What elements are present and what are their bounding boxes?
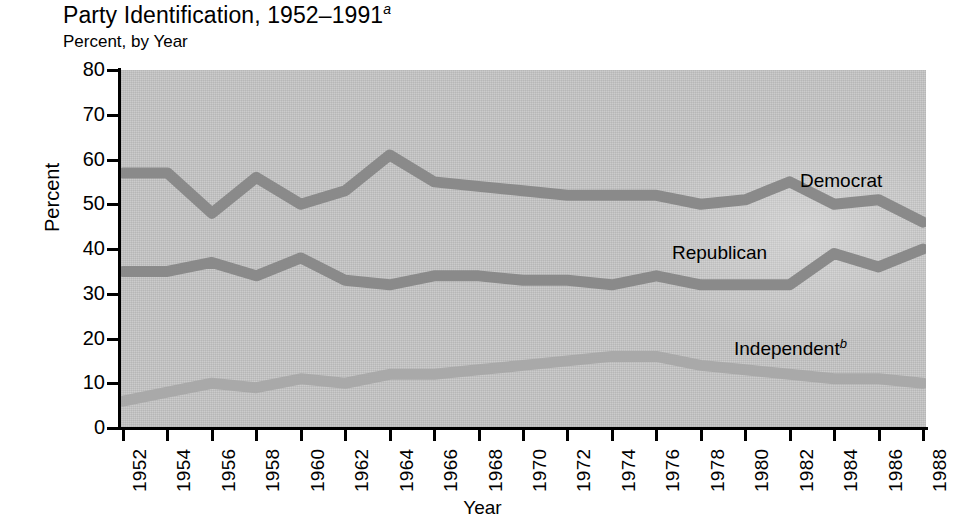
x-axis-tick — [744, 430, 747, 441]
x-axis-tick — [300, 430, 303, 441]
x-axis-tick-label: 1984 — [841, 422, 860, 492]
x-axis-tick-label: 1960 — [308, 422, 327, 492]
y-axis-tick — [107, 114, 120, 117]
series-label-democrat: Democrat — [800, 170, 882, 192]
page-title: Party Identification, 1952–1991a — [63, 1, 391, 29]
y-axis-tick-label: 0 — [61, 417, 105, 437]
y-axis-tick-label: 40 — [61, 238, 105, 258]
y-axis-tick-label: 30 — [61, 283, 105, 303]
plot-area — [120, 70, 926, 428]
y-axis-tick — [107, 382, 120, 385]
x-axis-tick — [122, 430, 125, 441]
x-axis-tick-label: 1982 — [797, 422, 816, 492]
x-axis-tick — [522, 430, 525, 441]
x-axis-tick-label: 1962 — [352, 422, 371, 492]
x-axis-tick-label: 1988 — [930, 422, 949, 492]
x-axis-tick — [789, 430, 792, 441]
x-axis-tick — [166, 430, 169, 441]
series-line-republican — [123, 249, 923, 285]
x-axis-tick-label: 1978 — [708, 422, 727, 492]
y-axis-tick-label: 70 — [61, 104, 105, 124]
x-axis-tick — [389, 430, 392, 441]
x-axis-tick-label: 1952 — [130, 422, 149, 492]
y-axis-tick — [107, 69, 120, 72]
x-axis-tick-label: 1954 — [174, 422, 193, 492]
x-axis-tick-label: 1976 — [663, 422, 682, 492]
series-lines — [120, 70, 926, 428]
y-axis-tick — [107, 159, 120, 162]
x-axis-tick — [700, 430, 703, 441]
x-axis-tick-label: 1964 — [397, 422, 416, 492]
x-axis-tick — [922, 430, 925, 441]
x-axis-tick — [344, 430, 347, 441]
series-label-independent-text: Independent — [734, 338, 840, 359]
x-axis-tick-label: 1958 — [263, 422, 282, 492]
y-axis-tick — [107, 338, 120, 341]
x-axis-tick-label: 1986 — [886, 422, 905, 492]
x-axis-tick — [611, 430, 614, 441]
chart-page: Party Identification, 1952–1991a Percent… — [0, 0, 965, 526]
page-title-footnote-marker: a — [383, 1, 391, 17]
x-axis-tick-label: 1968 — [486, 422, 505, 492]
y-axis-tick-label: 50 — [61, 193, 105, 213]
x-axis-tick-label: 1966 — [441, 422, 460, 492]
x-axis-tick-label: 1970 — [530, 422, 549, 492]
x-axis-tick — [211, 430, 214, 441]
x-axis-tick-label: 1974 — [619, 422, 638, 492]
x-axis-tick — [655, 430, 658, 441]
series-label-republican: Republican — [672, 242, 767, 264]
x-axis-title: Year — [0, 497, 965, 519]
x-axis-tick-label: 1956 — [219, 422, 238, 492]
y-axis-tick-label: 20 — [61, 328, 105, 348]
x-axis-tick — [433, 430, 436, 441]
series-label-independent-footnote-marker: b — [840, 336, 847, 351]
y-axis-tick-label: 10 — [61, 372, 105, 392]
y-axis-tick — [107, 203, 120, 206]
y-axis-tick — [107, 248, 120, 251]
page-subtitle: Percent, by Year — [63, 32, 188, 52]
y-axis-title: Percent — [41, 138, 64, 258]
x-axis-tick-label: 1972 — [574, 422, 593, 492]
y-axis-tick — [107, 427, 120, 430]
x-axis-tick — [878, 430, 881, 441]
x-axis-tick — [833, 430, 836, 441]
x-axis-tick — [255, 430, 258, 441]
y-axis-tick-label: 80 — [61, 59, 105, 79]
y-axis-tick — [107, 293, 120, 296]
series-line-independent — [123, 356, 923, 401]
x-axis-tick — [478, 430, 481, 441]
y-axis-tick-label: 60 — [61, 149, 105, 169]
page-title-text: Party Identification, 1952–1991 — [63, 2, 383, 28]
x-axis-tick-label: 1980 — [752, 422, 771, 492]
series-label-independent: Independentb — [734, 336, 847, 360]
x-axis-tick — [566, 430, 569, 441]
